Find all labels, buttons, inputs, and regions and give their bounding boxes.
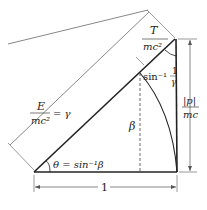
e-equals-gamma: = γ [53,108,71,119]
e-dimension-line [8,10,148,44]
top-angle-num: 1 [172,66,178,76]
base-arrow-left [35,185,40,189]
top-angle-arc [165,50,176,56]
e-dim-tick-low [8,143,34,170]
top-angle-sin: sin⁻¹ [143,71,167,82]
p-arrow-bottom [188,166,192,171]
base-arrow-right [171,185,176,189]
theta-label: θ = sin⁻¹β [53,159,104,170]
t-dim-tick [136,57,144,65]
energy-momentum-diagram: T mc² sin⁻¹ 1 γ E mc² = γ |p| mc β θ = s… [0,0,207,210]
base-label: 1 [101,181,108,194]
e-denominator: mc² [31,115,50,126]
p-arrow-top [188,40,192,45]
t-denominator: mc² [143,41,162,52]
top-angle-den: γ [171,77,177,87]
beta-label: β [128,120,135,133]
t-numerator: T [150,24,159,37]
theta-angle-arc [46,161,50,172]
e-numerator: E [36,100,45,113]
vertical-side [176,39,177,172]
hypotenuse [34,39,175,172]
unit-arc [140,73,177,172]
